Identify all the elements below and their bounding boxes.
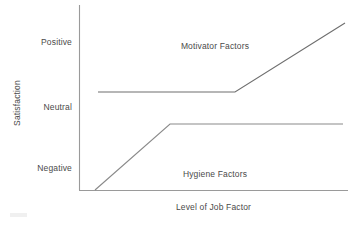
chart-plot-area [0, 0, 354, 226]
x-axis-title: Level of Job Factor [79, 202, 348, 212]
motivator-factors-line [98, 23, 345, 92]
motivator-factors-label: Motivator Factors [150, 41, 280, 51]
hygiene-factors-label: Hygiene Factors [150, 169, 280, 179]
hygiene-factors-line [95, 124, 343, 190]
y-tick-label-positive: Positive [10, 38, 72, 47]
y-axis-title: Satisfaction [12, 58, 22, 148]
y-tick-label-negative: Negative [10, 164, 72, 173]
corner-mark [10, 213, 27, 217]
herzberg-two-factor-chart: Positive Neutral Negative Satisfaction L… [0, 0, 354, 226]
